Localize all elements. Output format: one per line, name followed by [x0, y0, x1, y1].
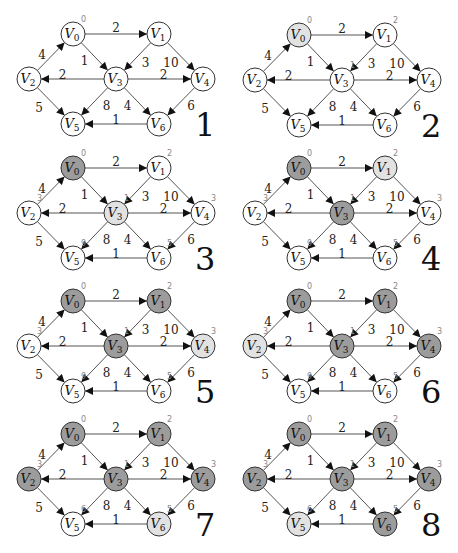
step-number: 1 — [195, 106, 215, 144]
node-V2: V23 — [17, 460, 42, 491]
node-V1: V12 — [373, 149, 398, 180]
distance-label-V4: 3 — [211, 460, 216, 469]
step-number: 7 — [195, 506, 215, 544]
node-V2: V23 — [243, 194, 268, 225]
edge-weight-V0-V1: 2 — [338, 288, 346, 302]
edge-weight-V3-V6: 4 — [350, 366, 358, 380]
step-panel-3: 2143102284561V00V12V23V31V43V59V653 — [17, 149, 216, 278]
distance-label-V6: 5 — [393, 372, 398, 381]
distance-label-V1: 2 — [167, 149, 172, 158]
edge-weight-V3-V5: 8 — [103, 233, 111, 247]
node-V4: V43 — [191, 194, 216, 225]
step-panel-7: 2143102284561V00V12V23V31V43V56V657 — [17, 415, 216, 544]
distance-label-V0: 0 — [81, 415, 86, 424]
node-V4: V43 — [417, 194, 442, 225]
node-V1: V12 — [147, 415, 172, 446]
distance-label-V5: 6 — [307, 505, 312, 514]
distance-label-V3: 1 — [124, 327, 129, 336]
distance-label-V5: 9 — [307, 239, 312, 248]
distance-label-V4: 3 — [437, 194, 442, 203]
edge-weight-V6-V5: 1 — [112, 513, 120, 527]
edge-weight-V3-V6: 4 — [350, 233, 358, 247]
edge-weight-V1-V3: 3 — [368, 57, 376, 71]
distance-label-V1: 2 — [393, 16, 398, 25]
edge-weight-V3-V2: 2 — [59, 468, 67, 482]
distance-label-V0: 0 — [81, 15, 86, 24]
node-V6: V65 — [373, 372, 398, 403]
node-V1: V12 — [147, 282, 172, 313]
node-V3: V31 — [104, 194, 129, 225]
node-V3: V31 — [330, 194, 355, 225]
node-V0: V00 — [61, 282, 86, 313]
node-V5: V59 — [287, 239, 312, 270]
edge-weight-V3-V4: 2 — [386, 468, 394, 482]
distance-label-V2: 3 — [37, 327, 42, 336]
distance-label-V2: 3 — [263, 194, 268, 203]
distance-label-V1: 2 — [167, 282, 172, 291]
edge-weight-V1-V3: 3 — [142, 56, 150, 70]
edge-weight-V3-V2: 2 — [59, 202, 67, 216]
edge-weight-V0-V3: 1 — [307, 454, 315, 468]
edge-weight-V3-V5: 8 — [329, 499, 337, 513]
distance-label-V1: 2 — [393, 415, 398, 424]
node-V4: V43 — [417, 327, 442, 358]
edge-weight-V4-V6: 6 — [413, 100, 421, 114]
edge-weight-V0-V3: 1 — [81, 188, 89, 202]
edge-weight-V2-V0: 4 — [264, 49, 272, 63]
node-V3: V31 — [330, 460, 355, 491]
distance-label-V6: 5 — [393, 239, 398, 248]
edge-weight-V0-V1: 2 — [338, 421, 346, 435]
edge-weight-V1-V3: 3 — [368, 456, 376, 470]
edge-weight-V2-V5: 5 — [261, 501, 269, 515]
distance-label-V4: 3 — [437, 327, 442, 336]
node-V5: V59 — [61, 239, 86, 270]
distance-label-V0: 0 — [307, 16, 312, 25]
edge-weight-V2-V5: 5 — [35, 101, 43, 115]
edge-weight-V3-V2: 2 — [285, 468, 293, 482]
step-panel-6: 2143102284561V00V12V23V31V43V59V656 — [243, 282, 442, 411]
distance-label-V0: 0 — [81, 282, 86, 291]
node-V1: V1 — [147, 22, 171, 46]
edge-weight-V2-V5: 5 — [261, 102, 269, 116]
node-V5: V59 — [61, 372, 86, 403]
edge-weight-V3-V6: 4 — [350, 499, 358, 513]
edge-weight-V0-V1: 2 — [112, 21, 120, 35]
node-V6: V65 — [147, 372, 172, 403]
edge-weight-V1-V3: 3 — [368, 190, 376, 204]
edge-weight-V3-V6: 4 — [124, 99, 132, 113]
edge-weight-V3-V2: 2 — [59, 68, 67, 82]
node-V1: V12 — [373, 415, 398, 446]
node-V5: V56 — [287, 505, 312, 536]
node-V3: V31 — [330, 327, 355, 358]
distance-label-V2: 3 — [37, 460, 42, 469]
edge-weight-V2-V5: 5 — [261, 368, 269, 382]
node-V2: V23 — [243, 460, 268, 491]
edge-weight-V2-V5: 5 — [261, 235, 269, 249]
edge-weight-V3-V5: 8 — [329, 100, 337, 114]
node-V1: V12 — [373, 16, 398, 47]
node-V6: V6 — [373, 113, 397, 137]
edge-weight-V3-V5: 8 — [103, 499, 111, 513]
step-panel-2: 2143102284561V00V12V2V31V4V5V62 — [243, 16, 441, 145]
dijkstra-steps-diagram: 2143102284561V00V1V2V3V4V5V6121431022845… — [0, 0, 458, 553]
edge-weight-V3-V4: 2 — [160, 202, 168, 216]
distance-label-V1: 2 — [167, 415, 172, 424]
edge-weight-V3-V2: 2 — [285, 69, 293, 83]
edge-weight-V6-V5: 1 — [112, 380, 120, 394]
node-V3: V3 — [104, 67, 128, 91]
distance-label-V3: 1 — [350, 61, 355, 70]
distance-label-V5: 9 — [81, 239, 86, 248]
edge-weight-V0-V3: 1 — [81, 54, 89, 68]
edge-weight-V0-V1: 2 — [338, 22, 346, 36]
edge-weight-V4-V6: 6 — [187, 366, 195, 380]
node-V0: V00 — [287, 149, 312, 180]
node-V2: V23 — [243, 327, 268, 358]
node-V5: V56 — [61, 505, 86, 536]
node-V6: V65 — [147, 239, 172, 270]
edge-weight-V4-V6: 6 — [413, 499, 421, 513]
step-panel-1: 2143102284561V00V1V2V3V4V5V61 — [17, 15, 215, 144]
edge-weight-V2-V5: 5 — [35, 368, 43, 382]
edge-weight-V4-V6: 6 — [187, 499, 195, 513]
node-V6: V65 — [373, 239, 398, 270]
node-V2: V23 — [17, 194, 42, 225]
